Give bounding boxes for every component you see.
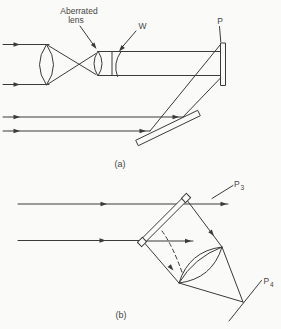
arrowhead-ray-2 bbox=[14, 82, 21, 86]
arrowhead-ray-1 bbox=[14, 42, 21, 46]
converging-ray-upper bbox=[47, 45, 97, 75]
aberrated-lens-label-line2: lens bbox=[68, 15, 84, 25]
figure-canvas: Aberrated lens W P (a) bbox=[0, 0, 281, 329]
beamsplitter-plate bbox=[140, 196, 188, 244]
arrowhead-ray-4-end bbox=[140, 129, 147, 133]
arrowhead-transmitted-5 bbox=[221, 202, 228, 206]
p4-label: P bbox=[264, 276, 270, 286]
p4-label-subscript: 4 bbox=[270, 281, 274, 288]
arrowhead-ray-4-start bbox=[14, 129, 21, 133]
p3-label: P bbox=[234, 179, 240, 189]
optical-test-figure: Aberrated lens W P (a) bbox=[0, 0, 281, 329]
collimator-lens bbox=[40, 45, 54, 86]
caption-a: (a) bbox=[115, 159, 126, 169]
p4-reference-line bbox=[229, 281, 262, 322]
arrowhead-ray-6 bbox=[100, 238, 107, 242]
wavefront-label: W bbox=[138, 21, 146, 31]
wavefront-arc bbox=[116, 52, 121, 77]
converging-ray-c2 bbox=[179, 283, 243, 302]
plate-label: P bbox=[217, 16, 223, 26]
panel-a: Aberrated lens W P (a) bbox=[3, 6, 226, 170]
aberrated-lens bbox=[94, 51, 102, 76]
reflected-ray-2 bbox=[145, 244, 179, 284]
panel-b: P 3 P 4 (b) bbox=[18, 179, 274, 322]
reference-plate bbox=[221, 43, 226, 86]
plate-leader-line bbox=[220, 27, 221, 43]
wavefront-leader-line bbox=[121, 31, 136, 49]
fold-mirror bbox=[136, 110, 201, 145]
arrowhead-ray-3-start bbox=[14, 115, 21, 119]
test-lens bbox=[179, 247, 222, 283]
arrowhead-ray-5 bbox=[101, 202, 108, 206]
arrowhead-transmitted-6 bbox=[185, 239, 192, 243]
arrowhead-ray-3-end bbox=[173, 115, 180, 119]
converging-ray-lower bbox=[47, 54, 97, 86]
reflected-ray-1 bbox=[187, 200, 223, 248]
p3-label-subscript: 3 bbox=[241, 184, 245, 191]
p3-reference-line bbox=[212, 186, 233, 199]
caption-b: (b) bbox=[116, 310, 127, 320]
aberrated-lens-label-line1: Aberrated bbox=[60, 6, 98, 16]
converging-ray-c1 bbox=[222, 247, 243, 302]
